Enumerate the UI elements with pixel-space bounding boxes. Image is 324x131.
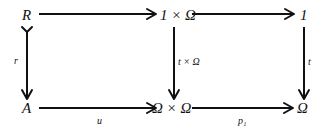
- edge-label-p1: p₁: [237, 115, 246, 126]
- node-omega: Ω: [297, 100, 308, 116]
- edge-OmegaxOmega-to-Omega: [192, 103, 293, 113]
- edge-1xOmega-to-1: [192, 9, 294, 19]
- commutative-diagram: R 1 × Ω 1 A Ω × Ω Ω r t × Ω t u p₁: [0, 0, 324, 131]
- node-R: R: [21, 7, 31, 23]
- edge-label-t-times-omega: t × Ω: [178, 56, 200, 67]
- node-1-times-omega: 1 × Ω: [160, 7, 196, 23]
- edge-R-to-1xOmega: [39, 9, 156, 19]
- edge-label-t: t: [308, 56, 311, 67]
- node-1: 1: [300, 7, 308, 23]
- edge-A-to-OmegaxOmega: [39, 103, 156, 113]
- node-omega-times-omega: Ω × Ω: [152, 100, 191, 116]
- edge-label-r: r: [14, 55, 18, 66]
- edge-label-u: u: [97, 115, 102, 126]
- edge-R-to-A: [22, 27, 32, 99]
- node-A: A: [21, 100, 32, 116]
